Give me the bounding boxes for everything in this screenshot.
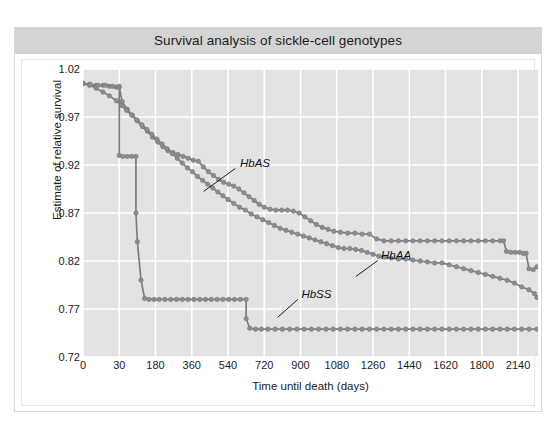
data-point-marker <box>295 232 299 236</box>
data-point-marker <box>243 208 247 212</box>
data-point-marker <box>348 246 352 250</box>
data-point-marker <box>535 265 538 269</box>
data-point-marker <box>411 258 415 262</box>
data-point-marker <box>232 201 236 205</box>
data-point-marker <box>359 248 363 252</box>
data-point-marker <box>88 82 92 86</box>
data-point-marker <box>268 207 272 211</box>
data-point-marker <box>389 239 393 243</box>
data-point-marker <box>117 84 121 88</box>
data-point-marker <box>425 239 429 243</box>
data-point-marker <box>83 81 85 85</box>
data-point-marker <box>440 239 444 243</box>
data-point-marker <box>513 250 517 254</box>
data-point-marker <box>338 230 342 234</box>
data-point-marker <box>501 239 505 243</box>
data-point-marker <box>129 154 133 158</box>
data-point-marker <box>163 297 167 301</box>
data-point-marker <box>418 327 422 331</box>
data-point-marker <box>262 205 266 209</box>
data-point-marker <box>403 327 407 331</box>
data-point-marker <box>483 239 487 243</box>
data-point-marker <box>192 297 196 301</box>
data-point-marker <box>290 230 294 234</box>
data-point-marker <box>519 285 523 289</box>
data-point-marker <box>216 190 220 194</box>
data-point-marker <box>301 234 305 238</box>
data-point-marker <box>336 245 340 249</box>
data-point-marker <box>221 180 225 184</box>
data-point-marker <box>203 297 207 301</box>
data-point-marker <box>345 231 349 235</box>
data-point-marker <box>307 236 311 240</box>
data-point-marker <box>382 327 386 331</box>
plot-area <box>83 69 538 357</box>
data-point-marker <box>200 178 204 182</box>
data-point-marker <box>247 194 251 198</box>
data-point-marker <box>255 215 259 219</box>
data-point-marker <box>454 265 458 269</box>
data-point-marker <box>338 327 342 331</box>
y-axis-tick-label: 0.77 <box>46 303 80 315</box>
data-point-marker <box>147 297 151 301</box>
plot-card: 1.020.970.920.870.820.770.72 Estimate of… <box>21 59 535 406</box>
data-point-marker <box>432 261 436 265</box>
data-point-marker <box>527 288 531 292</box>
data-point-marker <box>504 249 508 253</box>
data-point-marker <box>125 154 129 158</box>
data-point-marker <box>505 278 509 282</box>
data-point-marker <box>279 208 283 212</box>
data-point-marker <box>266 327 270 331</box>
data-point-marker <box>367 327 371 331</box>
data-point-marker <box>135 240 139 244</box>
data-point-marker <box>287 327 291 331</box>
data-point-marker <box>259 327 263 331</box>
chart-title: Survival analysis of sickle-cell genotyp… <box>15 28 541 54</box>
data-point-marker <box>512 281 516 285</box>
data-point-marker <box>266 220 270 224</box>
data-point-marker <box>396 327 400 331</box>
data-point-marker <box>155 137 159 141</box>
data-point-marker <box>418 259 422 263</box>
data-point-marker <box>374 327 378 331</box>
data-point-marker <box>211 186 215 190</box>
data-point-marker <box>476 327 480 331</box>
plot-svg <box>83 69 538 357</box>
data-point-marker <box>527 327 531 331</box>
data-point-marker <box>353 231 357 235</box>
data-point-marker <box>425 260 429 264</box>
data-point-marker <box>297 211 301 215</box>
data-point-marker <box>403 239 407 243</box>
data-point-marker <box>365 250 369 254</box>
data-point-marker <box>483 272 487 276</box>
data-point-marker <box>160 142 164 146</box>
series-annotation-HbSS: HbSS <box>301 288 331 300</box>
data-point-marker <box>440 261 444 265</box>
data-point-marker <box>237 205 241 209</box>
data-point-marker <box>440 327 444 331</box>
annotation-leader-line <box>356 261 378 277</box>
data-point-marker <box>469 327 473 331</box>
data-point-marker <box>226 197 230 201</box>
data-point-marker <box>314 222 318 226</box>
data-point-marker <box>121 154 125 158</box>
data-point-marker <box>242 191 246 195</box>
data-point-marker <box>232 184 236 188</box>
data-point-marker <box>261 218 265 222</box>
data-point-marker <box>249 212 253 216</box>
series-annotation-HbAA: HbAA <box>381 249 411 261</box>
chart-title-band: Survival analysis of sickle-cell genotyp… <box>15 28 541 54</box>
data-point-marker <box>302 327 306 331</box>
data-point-marker <box>174 297 178 301</box>
data-point-marker <box>320 225 324 229</box>
data-point-marker <box>367 232 371 236</box>
figure-root: Survival analysis of sickle-cell genotyp… <box>0 0 558 434</box>
data-point-marker <box>180 297 184 301</box>
data-point-marker <box>476 239 480 243</box>
data-point-marker <box>107 94 111 98</box>
data-point-marker <box>244 297 248 301</box>
series-HbAA <box>83 81 538 299</box>
data-point-marker <box>469 239 473 243</box>
data-point-marker <box>191 158 195 162</box>
data-point-marker <box>272 223 276 227</box>
